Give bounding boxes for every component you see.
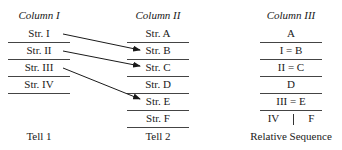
arrow-i-to-b: [63, 34, 140, 50]
connection-arrows: [0, 0, 342, 150]
arrow-ii-to-c: [63, 51, 140, 66]
arrow-iii-to-e: [63, 68, 140, 99]
